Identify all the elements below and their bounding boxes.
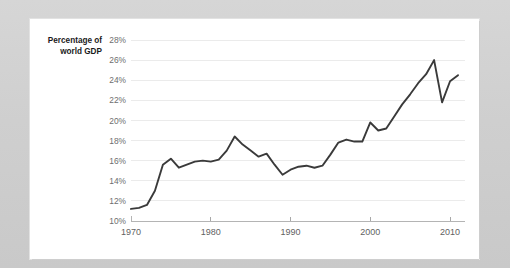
- y-axis-tick-label: 20%: [109, 116, 126, 126]
- x-axis-tick-label: 1970: [121, 227, 141, 237]
- y-axis-tick-labels: 10%12%14%16%18%20%22%24%26%28%: [109, 35, 126, 226]
- axis-title-line1: Percentage of: [48, 36, 102, 45]
- x-axis-tick-label: 2000: [360, 227, 380, 237]
- x-axis-tick-label: 2010: [440, 227, 460, 237]
- y-axis-tick-label: 10%: [109, 216, 126, 226]
- y-axis-tick-label: 22%: [109, 95, 126, 105]
- x-axis-tick-marks: [131, 217, 450, 221]
- y-axis-tick-label: 24%: [109, 75, 126, 85]
- y-axis-tick-label: 12%: [109, 196, 126, 206]
- y-axis-tick-label: 18%: [109, 136, 126, 146]
- card-bottom-edge: [32, 259, 479, 260]
- x-axis-tick-label: 1980: [201, 227, 221, 237]
- chart-card: 10%12%14%16%18%20%22%24%26%28% 197019801…: [30, 19, 479, 259]
- y-axis-tick-label: 26%: [109, 55, 126, 65]
- y-axis-tick-label: 28%: [109, 35, 126, 45]
- card-right-edge: [479, 21, 480, 259]
- x-axis-tick-labels: 19701980199020002010: [121, 227, 460, 237]
- axis-title-line2: world GDP: [59, 47, 102, 56]
- line-chart: 10%12%14%16%18%20%22%24%26%28% 197019801…: [30, 19, 479, 259]
- y-axis-tick-label: 16%: [109, 156, 126, 166]
- gridlines: [131, 40, 465, 201]
- data-series-line: [131, 60, 458, 209]
- x-axis-tick-label: 1990: [281, 227, 301, 237]
- y-axis-tick-label: 14%: [109, 176, 126, 186]
- page-root: 10%12%14%16%18%20%22%24%26%28% 197019801…: [0, 0, 510, 268]
- chart-svg: 10%12%14%16%18%20%22%24%26%28% 197019801…: [30, 19, 479, 259]
